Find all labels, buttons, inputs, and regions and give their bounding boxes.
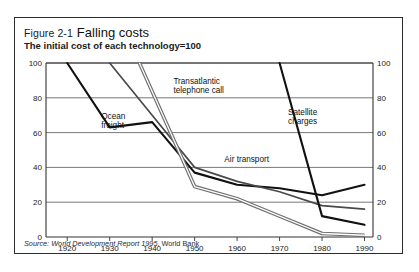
chart-plot-area: 0020204040606080801001001920193019401950… [15,18,404,255]
series-label-line: Air transport [224,155,269,164]
x-axis-tick-label: 1990 [356,244,374,253]
source-label: Source: [24,239,49,248]
series-label-line: Ocean [101,112,126,121]
y-axis-tick-label: 60 [33,129,42,138]
x-axis-tick-label: 1970 [271,244,289,253]
source-publisher: , World Bank [157,239,199,248]
series-label: Air transport [224,155,269,164]
y-axis-tick-label: 80 [377,94,386,103]
series-label-line: freight [101,121,124,130]
series-label: Transatlantictelephone call [173,77,224,95]
figure-container: Figure 2-1Falling costs The initial cost… [14,17,403,254]
y-axis-tick-label: 40 [33,163,42,172]
x-axis-tick-label: 1980 [313,244,331,253]
x-axis-tick-label: 1960 [228,244,246,253]
y-axis-tick-label: 20 [33,198,42,207]
y-axis-tick-label: 60 [377,129,386,138]
series-label: Satellitecharges [288,108,318,126]
source-title: World Development Report 1995 [51,239,157,248]
series-label: Oceanfreight [101,112,126,130]
line-chart: 0020204040606080801001001920193019401950… [15,18,404,255]
y-axis-tick-label: 0 [377,233,382,242]
y-axis-tick-label: 100 [377,59,391,68]
y-axis-tick-label: 80 [33,94,42,103]
source-note: Source: World Development Report 1995, W… [24,239,199,248]
series-label-line: Transatlantic [173,77,220,86]
y-axis-tick-label: 40 [377,163,386,172]
y-axis-tick-label: 20 [377,198,386,207]
series-label-line: telephone call [173,86,224,95]
series-label-line: charges [288,117,317,126]
y-axis-tick-label: 100 [29,59,43,68]
series-line [280,63,365,225]
series-label-line: Satellite [288,108,318,117]
